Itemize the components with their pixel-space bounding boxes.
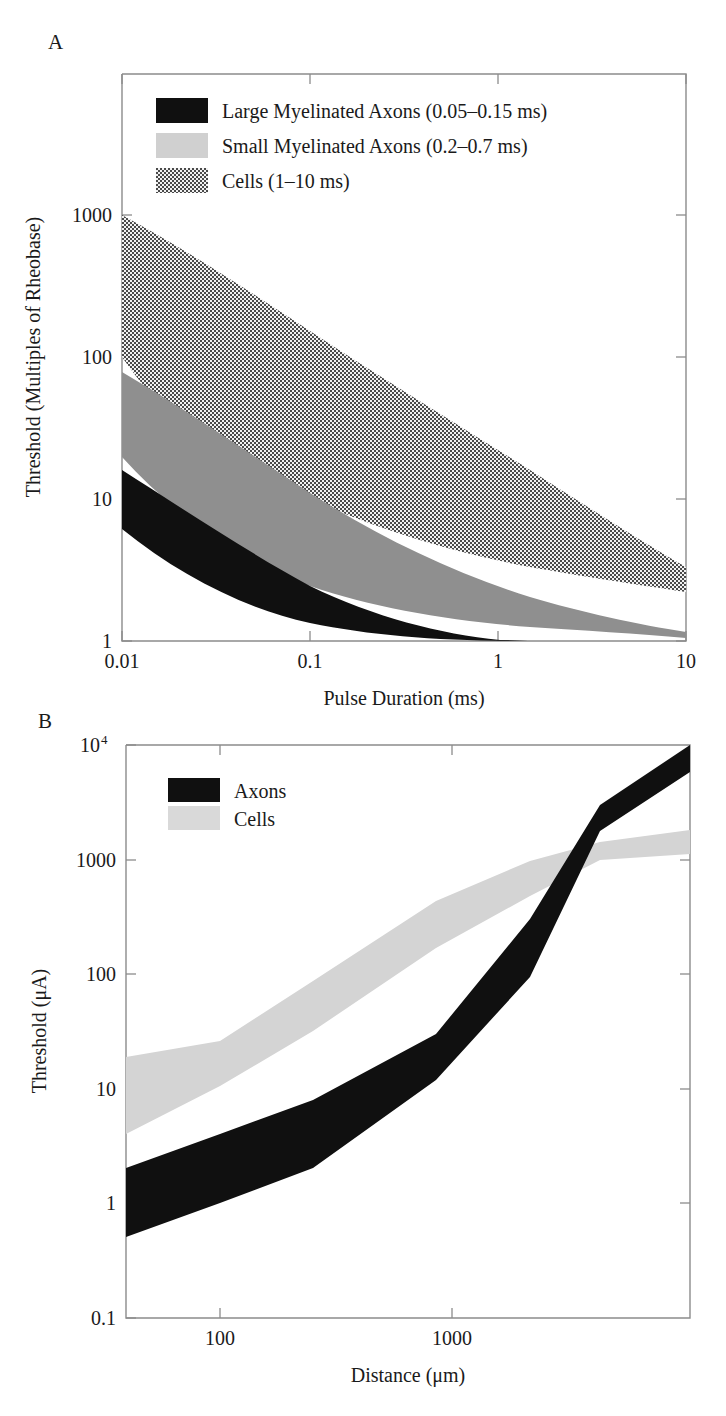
panel-b-ytick-5-exponent: 4 <box>101 732 108 747</box>
panel-a: A <box>0 0 726 730</box>
panel-b-xlabel: Distance (μm) <box>351 1364 466 1387</box>
legend-label-cells-b: Cells <box>234 808 275 830</box>
panel-b-legend: Axons Cells <box>168 778 286 830</box>
panel-b-ytick-labels: 0.1 1 10 100 1000 10 4 <box>76 732 116 1329</box>
legend-swatch-small-myelinated <box>156 133 208 158</box>
panel-b-ytick-1: 1 <box>106 1192 116 1214</box>
panel-b-plot: Axons Cells 100 1000 0.1 1 10 100 1000 1… <box>0 700 726 1416</box>
panel-a-data-bands <box>122 215 686 641</box>
panel-b-ytick-2: 10 <box>96 1078 116 1100</box>
panel-b: B <box>0 700 726 1416</box>
panel-a-legend: Large Myelinated Axons (0.05–0.15 ms) Sm… <box>156 98 547 193</box>
panel-a-ylabel: Threshold (Multiples of Rheobase) <box>22 217 45 498</box>
panel-b-xtick-1: 1000 <box>432 1327 472 1349</box>
legend-swatch-cells <box>156 168 208 193</box>
panel-a-ytick-2: 100 <box>82 346 112 368</box>
panel-a-ytick-3: 1000 <box>72 204 112 226</box>
panel-a-xtick-3: 10 <box>676 650 696 672</box>
figure-root: A <box>0 0 726 1416</box>
legend-swatch-cells-b <box>168 806 220 830</box>
panel-b-xtick-0: 100 <box>205 1327 235 1349</box>
panel-a-ytick-labels: 1 10 100 1000 <box>72 204 112 652</box>
panel-b-yticks <box>126 745 690 1318</box>
panel-a-ytick-0: 1 <box>102 630 112 652</box>
panel-a-xtick-1: 0.1 <box>298 650 323 672</box>
panel-b-xtick-labels: 100 1000 <box>205 1327 472 1349</box>
panel-b-ytick-4: 1000 <box>76 849 116 871</box>
panel-a-xtick-0: 0.01 <box>105 650 140 672</box>
legend-label-large-myelinated: Large Myelinated Axons (0.05–0.15 ms) <box>222 100 547 123</box>
panel-a-plot: Large Myelinated Axons (0.05–0.15 ms) Sm… <box>0 0 726 730</box>
panel-a-ytick-1: 10 <box>92 488 112 510</box>
panel-b-ylabel: Threshold (μA) <box>28 969 51 1094</box>
panel-b-ytick-0: 0.1 <box>91 1307 116 1329</box>
panel-b-ytick-3: 100 <box>86 963 116 985</box>
panel-b-ytick-5-base: 10 <box>80 734 100 756</box>
panel-a-xtick-2: 1 <box>493 650 503 672</box>
panel-a-xtick-labels: 0.01 0.1 1 10 <box>105 650 697 672</box>
panel-b-frame <box>126 745 690 1318</box>
legend-label-axons: Axons <box>234 780 286 802</box>
legend-swatch-axons <box>168 778 220 802</box>
legend-swatch-large-myelinated <box>156 98 208 123</box>
legend-label-cells: Cells (1–10 ms) <box>222 170 350 193</box>
legend-label-small-myelinated: Small Myelinated Axons (0.2–0.7 ms) <box>222 135 528 158</box>
